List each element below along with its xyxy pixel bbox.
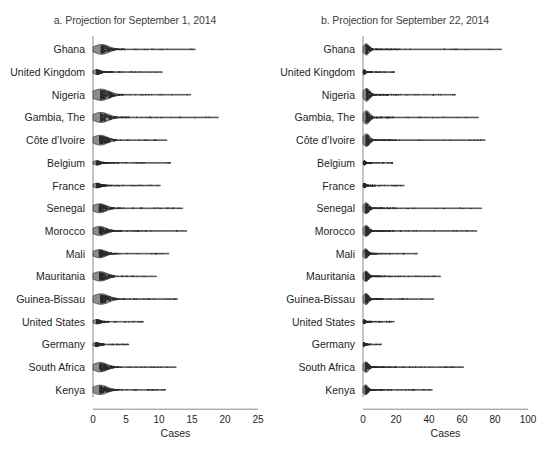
violin-sample-point bbox=[371, 95, 373, 97]
violin-sample-point bbox=[111, 367, 113, 369]
panel-a-title: a. Projection for September 1, 2014 bbox=[0, 14, 270, 26]
violin-sample-point bbox=[101, 230, 103, 232]
violin-sample-point bbox=[137, 321, 138, 322]
violin-sample-point bbox=[107, 91, 109, 93]
violin-sample-point bbox=[124, 298, 125, 299]
violin-sample-point bbox=[104, 140, 106, 142]
violin-sample-point bbox=[383, 208, 384, 209]
violin-sample-point bbox=[118, 185, 119, 186]
violin-sample-point bbox=[102, 91, 104, 93]
violin-sample-point bbox=[408, 389, 409, 390]
violin-sample-point bbox=[104, 231, 106, 233]
violin-sample-point bbox=[118, 94, 119, 95]
violin-sample-point bbox=[108, 96, 110, 98]
violin-sample-point bbox=[141, 321, 142, 322]
violin-sample-point bbox=[127, 253, 128, 254]
violin-sample-point bbox=[374, 366, 375, 367]
violin-sample-point bbox=[435, 208, 436, 209]
violin-sample-point bbox=[144, 162, 145, 163]
violin-sample-point bbox=[371, 139, 373, 141]
violin-sample-point bbox=[393, 49, 394, 50]
violin-sample-point bbox=[117, 162, 118, 163]
violin-sample-point bbox=[161, 389, 162, 390]
violin-sample-point bbox=[158, 207, 159, 208]
violin-sample-point bbox=[112, 207, 113, 208]
violin-sample-point bbox=[369, 49, 371, 51]
violin-sample-point bbox=[391, 366, 392, 367]
violin-sample-point bbox=[101, 277, 103, 279]
violin-sample-point bbox=[380, 185, 381, 186]
violin-sample-point bbox=[120, 367, 121, 368]
violin-sample-point bbox=[380, 389, 381, 390]
violin-sample-point bbox=[144, 140, 145, 141]
violin-sample-point bbox=[365, 204, 367, 206]
violin-sample-point bbox=[139, 71, 140, 72]
violin-sample-point bbox=[153, 389, 154, 390]
violin-sample-point bbox=[150, 230, 151, 231]
violin-sample-point bbox=[390, 276, 391, 277]
violin-sample-point bbox=[387, 117, 388, 118]
violin-sample-point bbox=[136, 162, 137, 163]
violin-sample-point bbox=[110, 48, 112, 50]
violin-sample-point bbox=[433, 94, 434, 95]
violin-sample-point bbox=[379, 366, 380, 367]
violin-sample-point bbox=[376, 275, 377, 276]
violin-sample-point bbox=[109, 95, 111, 97]
violin-sample-point bbox=[406, 94, 407, 95]
violin-sample-point bbox=[381, 321, 382, 322]
violin-sample-point bbox=[115, 389, 116, 390]
violin-sample-point bbox=[172, 208, 173, 209]
violin-sample-point bbox=[417, 94, 418, 95]
violin-sample-point bbox=[109, 50, 111, 52]
violin-sample-point bbox=[462, 208, 463, 209]
violin-sample-point bbox=[418, 139, 419, 140]
violin-sample-point bbox=[388, 162, 389, 163]
violin-sample-point bbox=[407, 298, 408, 299]
violin-sample-point bbox=[159, 49, 160, 50]
violin-sample-point bbox=[122, 344, 123, 345]
category-label: Guinea-Bissau bbox=[16, 293, 85, 305]
violin-sample-point bbox=[391, 276, 392, 277]
violin-sample-point bbox=[369, 71, 370, 72]
violin-sample-point bbox=[379, 49, 380, 50]
violin-sample-point bbox=[433, 230, 434, 231]
violin-sample-point bbox=[144, 366, 145, 367]
violin-sample-point bbox=[114, 208, 115, 209]
violin-sample-point bbox=[121, 389, 122, 390]
violin-sample-point bbox=[369, 116, 371, 118]
violin-sample-point bbox=[384, 94, 385, 95]
violin-sample-point bbox=[103, 252, 105, 254]
violin-sample-point bbox=[109, 344, 110, 345]
violin-sample-point bbox=[366, 185, 368, 187]
violin-sample-point bbox=[432, 275, 433, 276]
violin-sample-point bbox=[107, 50, 109, 52]
violin-sample-point bbox=[420, 366, 421, 367]
violin-sample-point bbox=[103, 273, 105, 275]
violin-sample-point bbox=[147, 139, 148, 140]
violin-sample-point bbox=[385, 389, 386, 390]
violin-sample-point bbox=[369, 299, 371, 301]
violin-sample-point bbox=[122, 49, 123, 50]
violin-sample-point bbox=[371, 116, 373, 118]
violin-sample-point bbox=[177, 208, 178, 209]
violin-sample-point bbox=[366, 210, 368, 212]
violin-sample-point bbox=[400, 275, 401, 276]
violin-sample-point bbox=[371, 162, 372, 163]
violin-sample-point bbox=[396, 208, 397, 209]
violin-sample-point bbox=[406, 208, 407, 209]
violin-sample-point bbox=[100, 113, 102, 115]
violin-sample-point bbox=[124, 49, 125, 50]
violin-sample-point bbox=[98, 70, 100, 72]
violin-sample-point bbox=[364, 322, 366, 324]
violin-sample-point bbox=[116, 185, 117, 186]
violin-sample-point bbox=[386, 321, 387, 322]
violin-sample-point bbox=[371, 207, 372, 208]
violin-sample-point bbox=[443, 208, 444, 209]
violin-sample-point bbox=[108, 141, 110, 143]
violin-sample-point bbox=[370, 185, 371, 186]
violin-sample-point bbox=[465, 117, 466, 118]
violin-sample-point bbox=[126, 344, 127, 345]
violin-sample-point bbox=[437, 117, 438, 118]
violin-sample-point bbox=[392, 230, 393, 231]
violin-sample-point bbox=[150, 185, 151, 186]
